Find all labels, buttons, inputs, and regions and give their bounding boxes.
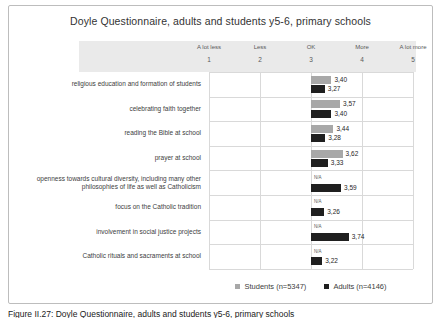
value-label-adults: 3,59 xyxy=(344,184,357,192)
bar-students xyxy=(311,100,340,108)
value-label-students: 3,44 xyxy=(336,125,349,133)
students-swatch-icon xyxy=(235,284,240,289)
x-tick-number: 4 xyxy=(352,56,372,63)
value-label-students: 3,62 xyxy=(346,150,359,158)
document-page: Doyle Questionnaire, adults and students… xyxy=(0,0,441,318)
na-label: N/A xyxy=(314,249,322,255)
bar-adults xyxy=(311,184,341,192)
legend-label-adults: Adults (n=4146) xyxy=(333,282,386,291)
bar-adults xyxy=(311,233,349,241)
category-label: religious education and formation of stu… xyxy=(13,72,201,97)
value-label-adults: 3,74 xyxy=(352,233,365,241)
value-label-adults: 3,26 xyxy=(327,208,340,216)
legend-item-students: Students (n=5347) xyxy=(235,282,306,291)
gridline-row-separator xyxy=(209,121,413,122)
x-tick-number: 2 xyxy=(250,56,270,63)
bar-adults xyxy=(311,159,328,167)
value-label-adults: 3,40 xyxy=(334,110,347,118)
category-label: focus on the Catholic tradition xyxy=(13,195,201,220)
bar-students xyxy=(311,76,331,84)
value-label-students: 3,57 xyxy=(343,100,356,108)
bar-adults xyxy=(311,208,324,216)
x-tick-number: 5 xyxy=(403,56,423,63)
value-label-adults: 3,33 xyxy=(331,159,344,167)
value-label-adults: 3,22 xyxy=(325,257,338,265)
category-label: involvement in social justice projects xyxy=(13,220,201,245)
gridline-row-separator xyxy=(209,146,413,147)
category-label: openness towards cultural diversity, inc… xyxy=(13,170,201,195)
bar-adults xyxy=(311,257,322,265)
adults-swatch-icon xyxy=(324,284,329,289)
plot-area: A lot less1Less2OK3More4A lot more5relig… xyxy=(9,6,432,303)
bar-students xyxy=(311,150,343,158)
gridline-row-separator xyxy=(209,170,413,171)
gridline-row-separator xyxy=(209,269,413,270)
bar-adults xyxy=(311,110,331,118)
value-label-students: 3,40 xyxy=(334,76,347,84)
legend-label-students: Students (n=5347) xyxy=(244,282,306,291)
x-tick-number: 3 xyxy=(301,56,321,63)
category-label: Catholic rituals and sacraments at schoo… xyxy=(13,244,201,269)
x-tick-number: 1 xyxy=(199,56,219,63)
gridline-row-separator xyxy=(209,97,413,98)
gridline-row-separator xyxy=(209,72,413,73)
gridline-row-separator xyxy=(209,244,413,245)
value-label-adults: 3,28 xyxy=(328,134,341,142)
bar-adults xyxy=(311,85,325,93)
bar-students xyxy=(311,125,333,133)
gridline-row-separator xyxy=(209,220,413,221)
value-label-adults: 3,27 xyxy=(328,85,341,93)
figure-frame: Doyle Questionnaire, adults and students… xyxy=(8,5,433,304)
category-label: prayer at school xyxy=(13,146,201,171)
chart-legend: Students (n=5347) Adults (n=4146) xyxy=(199,282,423,291)
category-label: reading the Bible at school xyxy=(13,121,201,146)
gridline-row-separator xyxy=(209,195,413,196)
bar-adults xyxy=(311,134,325,142)
na-label: N/A xyxy=(314,199,322,205)
na-label: N/A xyxy=(314,224,322,230)
gridline-vertical xyxy=(413,72,414,269)
category-label: celebrating faith together xyxy=(13,97,201,122)
na-label: N/A xyxy=(314,175,322,181)
legend-item-adults: Adults (n=4146) xyxy=(324,282,386,291)
x-tick-label: A lot more xyxy=(381,44,441,50)
figure-caption: Figure II.27: Doyle Questionnaire, adult… xyxy=(8,309,294,318)
